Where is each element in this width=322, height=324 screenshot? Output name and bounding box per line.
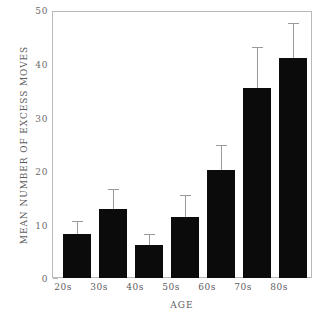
bar-group-60s bbox=[207, 12, 235, 278]
bar-30s bbox=[99, 209, 127, 278]
x-axis-label: AGE bbox=[52, 300, 312, 310]
bar-70s bbox=[243, 88, 271, 278]
error-bar-line-40s bbox=[149, 235, 150, 245]
bar-50s bbox=[171, 217, 199, 278]
bars-container bbox=[53, 12, 311, 278]
y-tick-label-30: 30 bbox=[24, 114, 48, 124]
bar-chart-figure: MEAN NUMBER OF EXCESS MOVES 0 10 20 30 4… bbox=[0, 0, 322, 324]
y-tick-label-10: 10 bbox=[24, 221, 48, 231]
x-tick-label-20s: 20s bbox=[45, 282, 81, 292]
x-tick-label-30s: 30s bbox=[81, 282, 117, 292]
bar-40s bbox=[135, 245, 163, 278]
error-bar-line-30s bbox=[113, 190, 114, 209]
error-bar-cap-60s bbox=[216, 145, 227, 146]
bar-80s bbox=[279, 58, 307, 278]
x-tick-label-50s: 50s bbox=[153, 282, 189, 292]
bar-group-20s bbox=[63, 12, 91, 278]
y-axis-label: MEAN NUMBER OF EXCESS MOVES bbox=[16, 11, 32, 279]
y-tick-label-50: 50 bbox=[24, 6, 48, 16]
error-bar-cap-30s bbox=[108, 189, 119, 190]
bar-group-50s bbox=[171, 12, 199, 278]
error-bar-cap-80s bbox=[288, 23, 299, 24]
x-tick-label-70s: 70s bbox=[225, 282, 261, 292]
error-bar-line-50s bbox=[185, 196, 186, 217]
bar-group-30s bbox=[99, 12, 127, 278]
bar-group-80s bbox=[279, 12, 307, 278]
error-bar-cap-20s bbox=[72, 221, 83, 222]
y-tick-label-20: 20 bbox=[24, 167, 48, 177]
x-tick-label-40s: 40s bbox=[117, 282, 153, 292]
y-tick-mark-0 bbox=[53, 278, 58, 279]
bar-group-40s bbox=[135, 12, 163, 278]
x-tick-label-60s: 60s bbox=[189, 282, 225, 292]
error-bar-line-20s bbox=[77, 222, 78, 234]
bar-group-70s bbox=[243, 12, 271, 278]
bar-20s bbox=[63, 234, 91, 278]
y-tick-label-40: 40 bbox=[24, 60, 48, 70]
error-bar-cap-40s bbox=[144, 234, 155, 235]
x-tick-label-80s: 80s bbox=[261, 282, 297, 292]
error-bar-line-60s bbox=[221, 146, 222, 171]
error-bar-cap-50s bbox=[180, 195, 191, 196]
error-bar-line-80s bbox=[293, 24, 294, 59]
bar-60s bbox=[207, 170, 235, 278]
error-bar-line-70s bbox=[257, 48, 258, 88]
error-bar-cap-70s bbox=[252, 47, 263, 48]
